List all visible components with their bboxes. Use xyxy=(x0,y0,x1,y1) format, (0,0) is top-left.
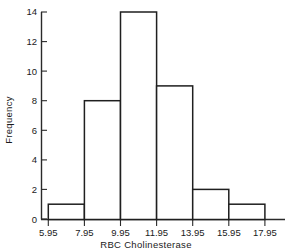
histogram-bar xyxy=(84,101,120,220)
y-tick-label: 12 xyxy=(26,36,37,47)
histogram-figure: Frequency 0 2 4 6 8 10 12 14 xyxy=(0,0,289,251)
x-tick-label: 11.95 xyxy=(145,227,168,238)
y-axis-title: Frequency xyxy=(3,96,14,144)
y-tick-label: 0 xyxy=(32,214,37,225)
y-tick-label: 6 xyxy=(32,125,37,136)
y-tick-label: 4 xyxy=(32,154,37,165)
histogram-canvas: Frequency 0 2 4 6 8 10 12 14 xyxy=(0,0,289,251)
y-tick-label: 2 xyxy=(32,184,37,195)
histogram-bar xyxy=(157,86,193,220)
histogram-bar xyxy=(121,12,157,220)
y-tick-label: 10 xyxy=(26,66,37,77)
histogram-bar xyxy=(193,189,229,219)
x-tick-label: 13.95 xyxy=(181,227,205,238)
y-tick-labels: 0 2 4 6 8 10 12 14 xyxy=(26,6,37,224)
y-tick-label: 14 xyxy=(26,6,37,17)
x-tick-marks xyxy=(48,220,265,227)
x-tick-label: 7.95 xyxy=(75,227,94,238)
histogram-bar xyxy=(48,204,84,219)
x-tick-labels: 5.95 7.95 9.95 11.95 13.95 15.95 17.95 xyxy=(39,227,277,238)
y-tick-label: 8 xyxy=(32,95,37,106)
x-tick-label: 9.95 xyxy=(111,227,130,238)
x-tick-label: 15.95 xyxy=(217,227,241,238)
histogram-bar xyxy=(229,204,265,219)
histogram-bars xyxy=(48,12,265,220)
x-tick-label: 17.95 xyxy=(253,227,277,238)
x-tick-label: 5.95 xyxy=(39,227,58,238)
x-axis-title: RBC Cholinesterase xyxy=(100,239,191,250)
